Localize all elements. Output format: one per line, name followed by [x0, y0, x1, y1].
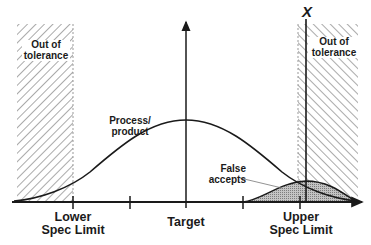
process-label-line2: product: [107, 127, 153, 138]
false-accepts-line2: accepts: [200, 175, 246, 186]
false-accepts-leader: [240, 178, 282, 188]
false-accepts-line1: False: [200, 164, 246, 175]
process-product-label: Process/ product: [107, 116, 153, 137]
spec-limit-diagram: Out of tolerance Out of tolerance X Proc…: [0, 0, 371, 245]
left-out-of-tolerance-label: Out of tolerance: [22, 40, 70, 61]
right-tolerance-line1: Out of: [309, 37, 359, 48]
left-tolerance-line1: Out of: [23, 40, 69, 51]
x-marker-label: X: [299, 4, 315, 20]
upper-spec-limit-label: Upper Spec Limit: [268, 211, 334, 237]
lower-spec-limit-label: Lower Spec Limit: [40, 211, 106, 237]
right-out-of-tolerance-label: Out of tolerance: [308, 37, 360, 58]
false-accepts-label: False accepts: [200, 164, 246, 185]
left-tolerance-line2: tolerance: [23, 51, 69, 62]
right-tolerance-line2: tolerance: [309, 48, 359, 59]
target-label: Target: [160, 216, 212, 229]
lower-spec-line2: Spec Limit: [40, 224, 106, 237]
upper-spec-line2: Spec Limit: [268, 224, 334, 237]
process-label-line1: Process/: [107, 116, 153, 127]
